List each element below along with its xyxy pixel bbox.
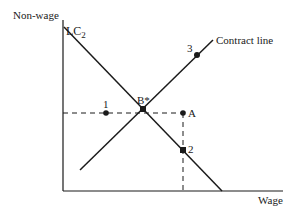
point-2-marker <box>180 147 186 153</box>
y-axis-label: Non-wage <box>13 9 59 21</box>
point-3-label: 3 <box>187 42 193 54</box>
point-a-marker <box>180 110 186 116</box>
lc2-label-sub: 2 <box>81 30 86 40</box>
lc2-label: LC2 <box>66 24 86 40</box>
lc2-label-main: LC <box>66 24 81 38</box>
point-a-label: A <box>188 107 196 119</box>
point-1-marker <box>103 110 109 116</box>
labor-contract-diagram: Non-wage Wage LC2 Contract line 1 B* A 2… <box>0 0 294 213</box>
point-1-label: 1 <box>103 98 109 110</box>
diagram-canvas: Non-wage Wage LC2 Contract line 1 B* A 2… <box>0 0 294 213</box>
contract-line-label: Contract line <box>216 34 273 46</box>
point-bstar-label: B* <box>137 94 150 106</box>
point-2-label: 2 <box>188 143 194 155</box>
point-3-marker <box>194 52 200 58</box>
x-axis-label: Wage <box>258 194 283 206</box>
point-bstar-marker <box>140 106 146 112</box>
